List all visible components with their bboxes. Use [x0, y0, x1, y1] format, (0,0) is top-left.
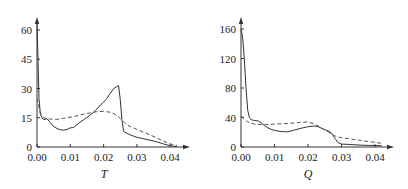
x-tick-label: 0.01: [265, 151, 284, 163]
x-axis-arrow-icon: [387, 145, 394, 149]
y-tick-label: 120: [220, 53, 237, 65]
x-tick-label: 0.03: [332, 151, 352, 163]
x-tick-label: 0.00: [231, 151, 251, 163]
chart-left-T: 0153045600.000.010.020.030.04T: [21, 17, 190, 181]
x-tick-label: 0.02: [94, 151, 113, 163]
series-solid-line: [37, 24, 177, 146]
figure-canvas: 0153045600.000.010.020.030.04T 040801201…: [0, 0, 408, 189]
y-axis-arrow-icon: [35, 17, 39, 24]
x-axis-label: T: [101, 167, 109, 181]
y-axis-arrow-icon: [239, 17, 243, 24]
y-tick-label: 60: [21, 24, 33, 36]
y-tick-label: 80: [225, 82, 237, 94]
y-tick-label: 30: [21, 83, 33, 95]
y-tick-label: 15: [21, 112, 33, 124]
x-tick-label: 0.04: [161, 151, 181, 163]
series-dashed-line: [37, 98, 177, 145]
series-dashed-line: [241, 116, 382, 143]
x-tick-label: 0.02: [298, 151, 317, 163]
x-tick-label: 0.01: [61, 151, 80, 163]
chart-right-Q: 040801201600.000.010.020.030.04Q: [220, 17, 395, 181]
y-tick-label: 40: [225, 112, 237, 124]
series-solid-line: [241, 29, 382, 146]
x-tick-label: 0.04: [365, 151, 385, 163]
x-tick-label: 0.03: [127, 151, 147, 163]
y-tick-label: 160: [220, 23, 237, 35]
x-tick-label: 0.00: [27, 151, 47, 163]
y-tick-label: 45: [21, 53, 33, 65]
figure: 0153045600.000.010.020.030.04T 040801201…: [0, 0, 408, 189]
x-axis-label: Q: [304, 167, 313, 181]
x-axis-arrow-icon: [183, 145, 190, 149]
